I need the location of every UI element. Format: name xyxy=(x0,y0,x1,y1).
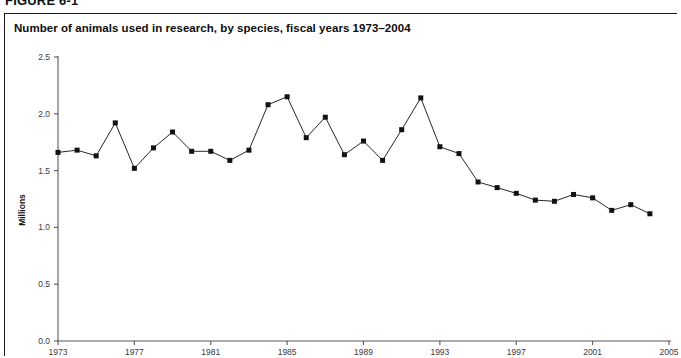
x-tick-label: 1989 xyxy=(354,347,373,357)
y-tick-label: 1.5 xyxy=(38,166,50,176)
data-point-marker xyxy=(476,179,481,184)
data-point-marker xyxy=(590,195,595,200)
data-point-marker xyxy=(571,192,576,197)
data-point-marker xyxy=(628,202,633,207)
data-point-marker xyxy=(323,115,328,120)
y-tick-label: 0.0 xyxy=(38,336,50,346)
data-point-marker xyxy=(399,127,404,132)
y-tick-label: 0.5 xyxy=(38,279,50,289)
data-point-marker xyxy=(56,150,61,155)
data-point-marker xyxy=(456,151,461,156)
y-axis-title: Millions xyxy=(17,194,27,226)
x-tick-label: 1981 xyxy=(201,347,220,357)
data-point-marker xyxy=(189,149,194,154)
data-point-marker xyxy=(113,120,118,125)
data-point-marker xyxy=(75,148,80,153)
x-tick-label: 1993 xyxy=(430,347,449,357)
data-point-marker xyxy=(647,211,652,216)
x-tick-label: 1997 xyxy=(507,347,526,357)
x-tick-group: 197319771981198519891993199720012005 xyxy=(49,341,679,357)
data-point-marker xyxy=(380,158,385,163)
data-point-marker xyxy=(227,158,232,163)
data-point-marker xyxy=(514,191,519,196)
data-point-marker xyxy=(266,102,271,107)
data-point-marker xyxy=(361,139,366,144)
data-point-marker xyxy=(418,95,423,100)
y-tick-label: 1.0 xyxy=(38,222,50,232)
data-point-marker xyxy=(170,129,175,134)
data-point-marker xyxy=(609,208,614,213)
data-point-marker xyxy=(151,145,156,150)
data-point-marker xyxy=(437,144,442,149)
data-point-marker xyxy=(552,199,557,204)
data-point-marker xyxy=(533,198,538,203)
data-point-marker xyxy=(132,166,137,171)
x-tick-label: 1973 xyxy=(49,347,68,357)
y-tick-label: 2.0 xyxy=(38,109,50,119)
data-point-marker xyxy=(94,153,99,158)
plot-area: 0.00.51.01.52.02.5 197319771981198519891… xyxy=(0,0,681,358)
y-tick-label: 2.5 xyxy=(38,52,50,62)
data-point-marker xyxy=(285,94,290,99)
data-point-marker xyxy=(246,148,251,153)
x-tick-label: 2001 xyxy=(583,347,602,357)
data-line-series-1 xyxy=(58,97,650,214)
data-point-marker xyxy=(208,149,213,154)
x-tick-label: 1985 xyxy=(278,347,297,357)
y-tick-group: 0.00.51.01.52.02.5 xyxy=(38,52,58,346)
x-tick-label: 1977 xyxy=(125,347,144,357)
line-chart-svg: 0.00.51.01.52.02.5 197319771981198519891… xyxy=(0,0,681,358)
x-tick-label: 2005 xyxy=(660,347,679,357)
data-point-marker xyxy=(304,135,309,140)
data-point-marker xyxy=(495,185,500,190)
data-point-marker xyxy=(342,152,347,157)
